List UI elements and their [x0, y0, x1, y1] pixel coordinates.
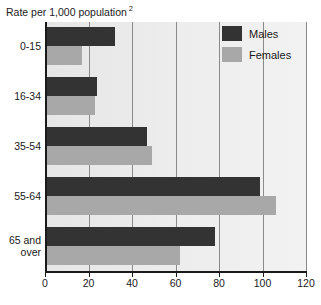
x-tick-label-80: 80	[204, 277, 234, 289]
bar-females-0-15	[45, 46, 82, 65]
legend-label-males: Males	[249, 28, 278, 40]
legend-item-males[interactable]: Males	[222, 24, 304, 43]
bar-males-16-34	[45, 77, 97, 96]
x-tick-label-20: 20	[74, 277, 104, 289]
bar-males-65-and-over	[45, 227, 215, 246]
y-axis-label-35-54: 35-54	[0, 140, 41, 152]
y-axis-label-line: 55-64	[0, 190, 41, 202]
bar-males-35-54	[45, 127, 147, 146]
legend-item-females[interactable]: Females	[222, 45, 304, 64]
y-axis-label-0-15: 0-15	[0, 40, 41, 52]
chart-legend: MalesFemales	[222, 24, 304, 66]
y-axis-line	[45, 22, 47, 272]
y-axis-label-65-and-over: 65 andover	[0, 234, 41, 258]
gridline-80	[219, 22, 220, 272]
chart-title: Rate per 1,000 population2	[6, 2, 133, 19]
bar-males-0-15	[45, 27, 115, 46]
bar-females-55-64	[45, 196, 276, 215]
bar-females-65-and-over	[45, 246, 180, 265]
legend-label-females: Females	[249, 49, 291, 61]
y-axis-label-55-64: 55-64	[0, 190, 41, 202]
chart-title-text: Rate per 1,000 population	[6, 6, 127, 18]
y-axis-label-line: over	[0, 246, 41, 258]
x-tick-label-40: 40	[117, 277, 147, 289]
bar-males-55-64	[45, 177, 260, 196]
bar-females-16-34	[45, 96, 95, 115]
y-axis-label-line: 16-34	[0, 90, 41, 102]
legend-swatch-males	[222, 26, 242, 41]
x-tick-label-100: 100	[248, 277, 278, 289]
y-axis-label-line: 65 and	[0, 234, 41, 246]
x-tick-label-120: 120	[291, 277, 321, 289]
x-tick-label-0: 0	[30, 277, 60, 289]
y-axis-label-line: 0-15	[0, 40, 41, 52]
bar-females-35-54	[45, 146, 152, 165]
x-tick-label-60: 60	[161, 277, 191, 289]
y-axis-label-line: 35-54	[0, 140, 41, 152]
legend-swatch-females	[222, 47, 242, 62]
gridline-120	[306, 22, 307, 272]
y-axis-label-16-34: 16-34	[0, 90, 41, 102]
chart-title-footnote-marker: 2	[129, 4, 133, 13]
